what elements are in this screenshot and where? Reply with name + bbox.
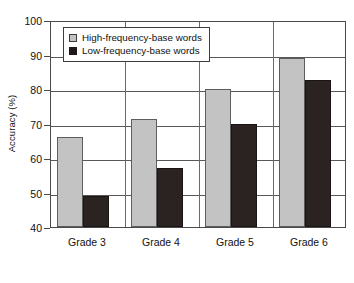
bar xyxy=(57,137,83,227)
bar xyxy=(205,89,231,227)
legend-swatch-light-icon xyxy=(69,34,77,42)
y-tick-label: 80 xyxy=(2,85,42,95)
legend-swatch-dark-icon xyxy=(69,47,77,55)
legend-label-high-frequency: High-frequency-base words xyxy=(82,32,202,43)
y-tick-mark xyxy=(44,228,50,229)
y-tick-label: 100 xyxy=(2,16,42,26)
legend-label-low-frequency: Low-frequency-base words xyxy=(82,45,200,56)
x-tick-label: Grade 4 xyxy=(124,236,198,248)
bar xyxy=(279,58,305,227)
x-tick-label: Grade 6 xyxy=(272,236,346,248)
y-tick-label: 60 xyxy=(2,154,42,164)
bar xyxy=(305,80,331,227)
bar xyxy=(131,119,157,227)
legend: High-frequency-base words Low-frequency-… xyxy=(63,27,210,62)
bar xyxy=(231,124,257,228)
bar-chart: Accuracy (%) 405060708090100 Grade 3Grad… xyxy=(0,0,354,283)
y-tick-label: 50 xyxy=(2,189,42,199)
y-tick-label: 90 xyxy=(2,51,42,61)
y-tick-label: 40 xyxy=(2,223,42,233)
y-tick-label: 70 xyxy=(2,120,42,130)
legend-item-low-frequency: Low-frequency-base words xyxy=(69,44,202,57)
x-tick-label: Grade 5 xyxy=(198,236,272,248)
bar xyxy=(157,168,183,227)
category-separator xyxy=(273,22,274,227)
bar xyxy=(83,196,109,227)
legend-item-high-frequency: High-frequency-base words xyxy=(69,31,202,44)
x-tick-label: Grade 3 xyxy=(50,236,124,248)
